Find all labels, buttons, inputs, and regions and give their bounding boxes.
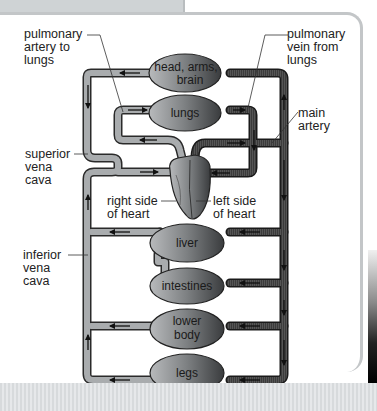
- svg-text:head, arms,: head, arms,: [154, 60, 217, 74]
- svg-text:vein from: vein from: [287, 40, 338, 54]
- label-pulmonary-artery: pulmonary artery to lungs: [24, 27, 83, 67]
- svg-text:lungs: lungs: [24, 53, 54, 67]
- organ-lungs: lungs: [149, 95, 221, 131]
- organ-head: head, arms, brain: [149, 54, 221, 92]
- svg-text:body: body: [174, 328, 200, 342]
- svg-text:vena: vena: [23, 261, 50, 275]
- circulatory-diagram: head, arms, brain lungs liver intestines…: [0, 0, 377, 411]
- heart: [170, 155, 211, 219]
- svg-text:cava: cava: [23, 274, 49, 288]
- svg-text:pulmonary: pulmonary: [24, 27, 83, 41]
- svg-text:right side: right side: [107, 194, 158, 208]
- organ-lower-body: lower body: [150, 309, 224, 349]
- label-inferior-vena-cava: inferior vena cava: [23, 248, 61, 288]
- organ-liver: liver: [150, 224, 224, 262]
- svg-text:vena: vena: [25, 160, 52, 174]
- organ-intestines: intestines: [150, 268, 224, 304]
- svg-text:superior: superior: [25, 147, 70, 161]
- label-right-heart: right side of heart: [107, 194, 158, 221]
- svg-text:intestines: intestines: [162, 279, 213, 293]
- svg-text:left side: left side: [213, 194, 256, 208]
- label-superior-vena-cava: superior vena cava: [25, 147, 70, 187]
- label-pulmonary-vein: pulmonary vein from lungs: [287, 27, 346, 67]
- svg-text:legs: legs: [176, 366, 198, 380]
- svg-text:of heart: of heart: [213, 207, 256, 221]
- svg-text:cava: cava: [25, 173, 51, 187]
- svg-text:main: main: [298, 106, 325, 120]
- svg-text:artery: artery: [298, 119, 331, 133]
- bottom-page-strip: [0, 383, 377, 411]
- svg-text:of heart: of heart: [107, 207, 150, 221]
- svg-text:artery to: artery to: [24, 40, 70, 54]
- svg-text:inferior: inferior: [23, 248, 61, 262]
- svg-text:pulmonary: pulmonary: [287, 27, 346, 41]
- svg-text:lungs: lungs: [287, 53, 317, 67]
- svg-text:lungs: lungs: [171, 106, 200, 120]
- label-left-heart: left side of heart: [213, 194, 256, 221]
- svg-text:lower: lower: [173, 314, 202, 328]
- svg-text:liver: liver: [176, 236, 198, 250]
- svg-text:brain: brain: [177, 73, 204, 87]
- label-main-artery: main artery: [298, 106, 331, 133]
